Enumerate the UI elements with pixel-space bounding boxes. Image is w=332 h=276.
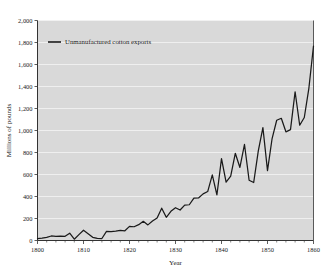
line-chart: 02004006008001,0001,2001,4001,6001,8002,…: [0, 0, 332, 276]
y-axis-ticks: 02004006008001,0001,2001,4001,6001,8002,…: [18, 17, 37, 244]
x-axis-title: Year: [169, 259, 183, 267]
x-tick-label: 1830: [169, 246, 182, 253]
y-tick-label: 200: [23, 215, 33, 222]
x-tick-label: 1820: [123, 246, 136, 253]
y-tick-label: 1,200: [18, 105, 32, 112]
y-axis-title: Millions of pounds: [5, 104, 13, 158]
y-tick-label: 800: [23, 149, 33, 156]
y-tick-label: 0: [29, 237, 32, 244]
y-tick-label: 400: [23, 193, 33, 200]
y-tick-label: 600: [23, 171, 33, 178]
x-tick-label: 1860: [307, 246, 320, 253]
y-tick-label: 2,000: [18, 17, 32, 24]
x-tick-label: 1840: [215, 246, 228, 253]
x-tick-label: 1850: [261, 246, 274, 253]
x-tick-label: 1810: [77, 246, 90, 253]
x-tick-label: 1800: [31, 246, 44, 253]
y-tick-label: 1,400: [18, 83, 32, 90]
y-tick-label: 1,000: [18, 127, 32, 134]
legend-label: Unmanufactured cotton exports: [65, 38, 151, 45]
chart-figure: 02004006008001,0001,2001,4001,6001,8002,…: [0, 0, 332, 276]
y-tick-label: 1,600: [18, 61, 32, 68]
x-axis-ticks: 1800181018201830184018501860: [31, 241, 320, 253]
y-tick-label: 1,800: [18, 39, 32, 46]
